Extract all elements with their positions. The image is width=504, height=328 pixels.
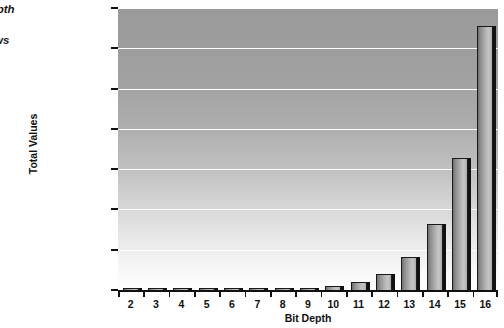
bar (427, 224, 443, 290)
x-tick-label: 2 (128, 298, 134, 310)
y-axis-label: Total Values (27, 89, 39, 199)
x-tick-mark (496, 290, 498, 297)
y-tick-mark (111, 168, 118, 170)
x-tick-label: 8 (280, 298, 286, 310)
x-tick-label: 15 (454, 298, 466, 310)
y-tick-mark (111, 289, 118, 291)
x-tick-mark (447, 290, 449, 297)
x-tick-mark (473, 290, 475, 297)
x-tick-mark (371, 290, 373, 297)
x-tick-mark (143, 290, 145, 297)
x-tick-mark (422, 290, 424, 297)
x-tick-label: 12 (378, 298, 390, 310)
x-tick-mark (346, 290, 348, 297)
gridline (118, 8, 498, 9)
x-tick-label: 16 (479, 298, 491, 310)
gridline (118, 169, 498, 170)
x-tick-label: 3 (153, 298, 159, 310)
x-tick-label: 13 (403, 298, 415, 310)
x-tick-label: 6 (229, 298, 235, 310)
x-tick-label: 14 (429, 298, 441, 310)
gridline (118, 129, 498, 130)
x-tick-label: 4 (178, 298, 184, 310)
x-tick-mark (169, 290, 171, 297)
y-tick-mark (111, 249, 118, 251)
gridline (118, 209, 498, 210)
bar-chart: 010,00020,00030,00040,00050,00060,00070,… (0, 0, 504, 328)
y-tick-mark (111, 128, 118, 130)
gridline (118, 89, 498, 90)
y-tick-mark (111, 208, 118, 210)
x-tick-mark (397, 290, 399, 297)
x-axis-label: Bit Depth (118, 312, 498, 324)
x-tick-mark (295, 290, 297, 297)
gridline (118, 48, 498, 49)
bar (401, 257, 417, 290)
x-axis-line (118, 290, 498, 292)
x-tick-mark (219, 290, 221, 297)
x-tick-label: 10 (327, 298, 339, 310)
x-tick-label: 9 (305, 298, 311, 310)
x-tick-label: 7 (254, 298, 260, 310)
y-tick-mark (111, 7, 118, 9)
y-tick-mark (111, 47, 118, 49)
y-tick-mark (111, 88, 118, 90)
bar (452, 158, 468, 290)
bar (477, 26, 493, 290)
x-tick-label: 11 (353, 298, 364, 310)
x-tick-mark (118, 290, 120, 297)
x-tick-mark (245, 290, 247, 297)
bar (351, 282, 367, 290)
x-tick-mark (321, 290, 323, 297)
plot-area (118, 8, 498, 290)
x-tick-mark (194, 290, 196, 297)
x-tick-label: 5 (204, 298, 210, 310)
bar (376, 274, 392, 291)
x-tick-mark (270, 290, 272, 297)
